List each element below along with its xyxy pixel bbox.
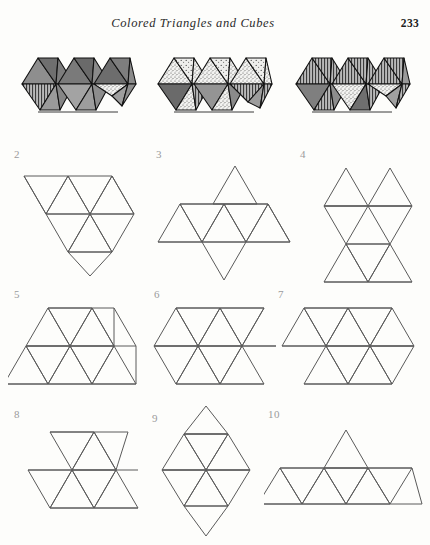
net-label-2: 2: [14, 148, 20, 160]
polyhedra-plate-left-art: [14, 44, 142, 130]
net-figure-8-art: [8, 420, 148, 510]
polyhedra-plate-right-art: [288, 44, 416, 130]
illustration-band: [0, 44, 430, 130]
net-figure-3-art: [150, 160, 300, 285]
net-figure-7-art: [276, 300, 430, 390]
net-label-10: 10: [268, 408, 280, 420]
page-title: Colored Triangles and Cubes: [0, 16, 386, 31]
polyhedra-plate-center: [150, 44, 278, 130]
net-figure-4-art: [296, 160, 426, 285]
net-label-8: 8: [14, 408, 20, 420]
page-header: Colored Triangles and Cubes 233: [0, 16, 430, 38]
net-label-6: 6: [154, 288, 160, 300]
net-figure-9-art: [150, 404, 270, 539]
polyhedra-plate-left: [14, 44, 142, 130]
polyhedra-plate-center-art: [150, 44, 278, 130]
page-number: 233: [401, 17, 419, 29]
net-label-7: 7: [278, 288, 284, 300]
net-figure-2-art: [8, 160, 148, 285]
net-label-3: 3: [156, 148, 162, 160]
net-label-5: 5: [14, 288, 20, 300]
net-figure-10-art: [264, 420, 430, 510]
net-label-4: 4: [300, 148, 306, 160]
net-figure-6-art: [150, 300, 280, 390]
net-figure-5-art: [8, 300, 148, 390]
polyhedra-plate-right: [288, 44, 416, 130]
